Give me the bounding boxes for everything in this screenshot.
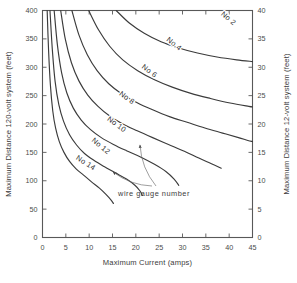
curve-label-no-12: No 12: [90, 136, 112, 157]
x-tick-label: 15: [109, 243, 117, 252]
y-tick-label-left: 0: [34, 233, 38, 242]
chart-svg: 0510152025303540450501001502002503003504…: [0, 0, 297, 283]
curve-no-10: [54, 11, 179, 186]
y-tick-label-right: 20: [258, 120, 266, 129]
y-tick-label-left: 200: [26, 120, 38, 129]
y-tick-label-left: 50: [30, 205, 38, 214]
y-tick-label-right: 35: [258, 34, 266, 43]
y-tick-label-right: 10: [258, 176, 266, 185]
x-tick-label: 25: [155, 243, 163, 252]
y-tick-label-left: 400: [26, 6, 38, 15]
x-tick-label: 45: [249, 243, 257, 252]
y-tick-label-left: 150: [26, 148, 38, 157]
x-tick-label: 20: [132, 243, 140, 252]
y-tick-label-right: 25: [258, 91, 266, 100]
x-tick-label: 10: [85, 243, 93, 252]
y-tick-label-left: 350: [26, 34, 38, 43]
y-tick-label-right: 5: [258, 205, 262, 214]
curve-label-no-8: No 8: [118, 89, 137, 106]
x-tick-label: 5: [64, 243, 68, 252]
x-axis-title: Maximum Current (amps): [103, 258, 193, 267]
curve-label-no-4: No 4: [165, 35, 184, 52]
y-axis-title-left: Maximum Distance 120-volt system (feet): [4, 51, 13, 197]
y-tick-label-left: 250: [26, 91, 38, 100]
curve-label-no-14: No 14: [75, 153, 98, 172]
arrow-to-no8: [140, 145, 156, 186]
y-tick-label-left: 100: [26, 176, 38, 185]
y-tick-label-right: 30: [258, 63, 266, 72]
curve-label-no-10: No 10: [106, 114, 128, 134]
y-tick-label-left: 300: [26, 63, 38, 72]
y-tick-label-right: 0: [258, 233, 262, 242]
curve-no-8: [61, 11, 222, 169]
y-tick-label-right: 40: [258, 6, 266, 15]
curve-label-no-2: No 2: [219, 9, 238, 27]
plot-frame: [43, 11, 253, 238]
x-tick-label: 40: [225, 243, 233, 252]
y-axis-title-right: Maximum Distance 12-volt system (feet): [282, 53, 291, 194]
x-tick-label: 35: [202, 243, 210, 252]
wire-gauge-annotation: wire gauge number: [117, 189, 190, 198]
y-tick-label-right: 15: [258, 148, 266, 157]
chart-figure: 0510152025303540450501001502002503003504…: [0, 0, 297, 283]
x-tick-label: 0: [41, 243, 45, 252]
x-tick-label: 30: [179, 243, 187, 252]
